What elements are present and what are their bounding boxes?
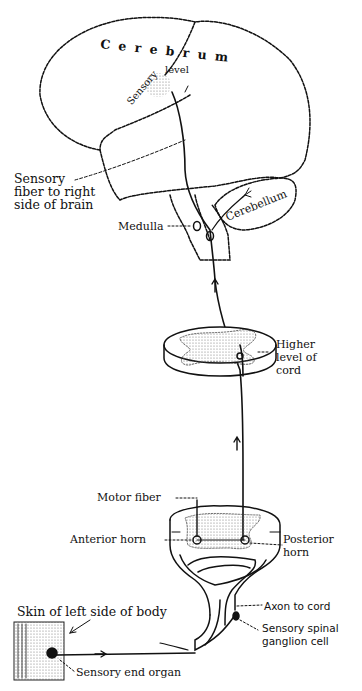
label-skin: Skin of left side of body <box>17 605 167 618</box>
label-axon: Axon to cord <box>264 600 330 612</box>
sensory-fiber <box>172 92 243 540</box>
label-sensory-fiber-3: side of brain <box>14 198 93 211</box>
label-sensory-level-2: level <box>165 64 189 76</box>
label-ganglion-1: Sensory spinal <box>262 622 339 634</box>
label-higher-2: level of <box>276 352 316 364</box>
label-higher-3: cord <box>276 365 301 377</box>
label-posterior-2: horn <box>283 547 309 559</box>
label-motor-fiber: Motor fiber <box>97 492 161 504</box>
sensory-pathway-diagram: C e r e b r u m Sensory level Sensory fi… <box>0 0 362 691</box>
label-posterior-1: Posterior <box>283 534 334 546</box>
label-end-organ: Sensory end organ <box>76 667 181 679</box>
label-medulla: Medulla <box>118 221 164 233</box>
label-ganglion-2: ganglion cell <box>262 635 329 647</box>
label-anterior-horn: Anterior horn <box>70 534 146 546</box>
label-higher-1: Higher <box>276 339 315 351</box>
